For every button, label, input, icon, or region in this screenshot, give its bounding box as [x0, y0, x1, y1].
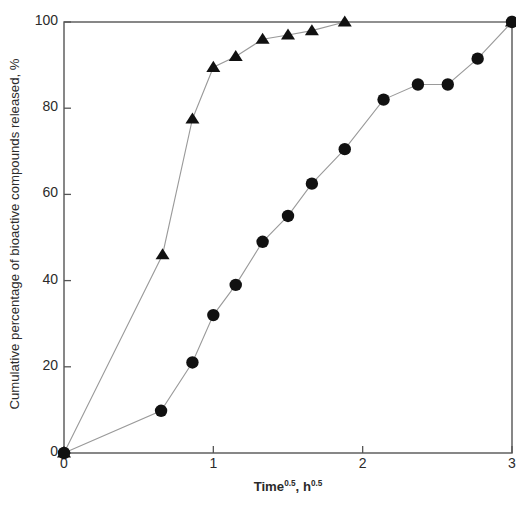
data-point-circle [471, 52, 483, 64]
data-point-circle [58, 447, 70, 459]
data-point-triangle [185, 113, 199, 124]
data-point-circle [442, 78, 454, 90]
data-point-circle [230, 279, 242, 291]
data-point-circle [282, 210, 294, 222]
chart-figure: Cumulative percentage of bioactive compo… [0, 0, 516, 506]
data-point-triangle [156, 248, 170, 259]
plot-area [0, 0, 516, 506]
data-point-circle [186, 356, 198, 368]
series-circle-series [58, 16, 516, 459]
data-point-triangle [206, 61, 220, 72]
data-point-triangle [229, 50, 243, 61]
data-point-circle [306, 177, 318, 189]
data-point-circle [339, 143, 351, 155]
data-point-circle [412, 78, 424, 90]
data-point-triangle [338, 16, 352, 27]
data-point-circle [377, 93, 389, 105]
data-point-circle [256, 236, 268, 248]
data-point-circle [155, 405, 167, 417]
data-point-circle [207, 309, 219, 321]
